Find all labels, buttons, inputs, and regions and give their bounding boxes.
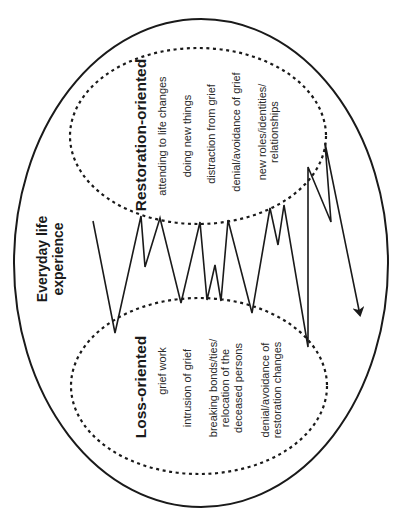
outer-ellipse-everyday-life: [14, 19, 388, 507]
item-line: restoration changes: [271, 342, 283, 439]
item-line: denial/avoidance of: [259, 342, 271, 439]
title-line: experience: [51, 216, 67, 302]
item-line: relationships: [268, 84, 280, 181]
restoration-item: doing new things: [181, 95, 193, 178]
restoration-item: distraction from grief: [205, 84, 217, 184]
restoration-item: denial/avoidance of grief: [230, 72, 242, 191]
item-line: doing new things: [181, 95, 193, 178]
loss-oriented-heading: Loss-oriented: [132, 336, 149, 438]
loss-oriented-ellipse: [71, 298, 327, 474]
item-line: relocation of the: [219, 339, 231, 437]
restoration-item: new roles/identities/ relationships: [256, 84, 281, 181]
everyday-life-experience-title: Everyday life experience: [35, 216, 66, 302]
item-line: distraction from grief: [205, 84, 217, 184]
loss-item: breaking bonds/ties/ relocation of the d…: [207, 339, 244, 437]
loss-item: intrusion of grief: [181, 349, 193, 427]
item-line: breaking bonds/ties/: [207, 339, 219, 437]
dual-process-model-diagram: Everyday life experience Restoration-ori…: [0, 0, 397, 525]
restoration-oriented-heading: Restoration-oriented: [132, 59, 149, 211]
item-line: denial/avoidance of grief: [230, 72, 242, 191]
title-line: Everyday life: [35, 216, 51, 302]
restoration-item: attending to life changes: [156, 76, 168, 195]
item-line: attending to life changes: [156, 76, 168, 195]
loss-item: grief work: [156, 347, 168, 395]
item-line: intrusion of grief: [181, 349, 193, 427]
loss-item: denial/avoidance of restoration changes: [259, 342, 284, 439]
restoration-oriented-ellipse: [70, 48, 326, 224]
item-line: new roles/identities/: [256, 84, 268, 181]
item-line: grief work: [156, 347, 168, 395]
item-line: deceased persons: [231, 339, 243, 437]
